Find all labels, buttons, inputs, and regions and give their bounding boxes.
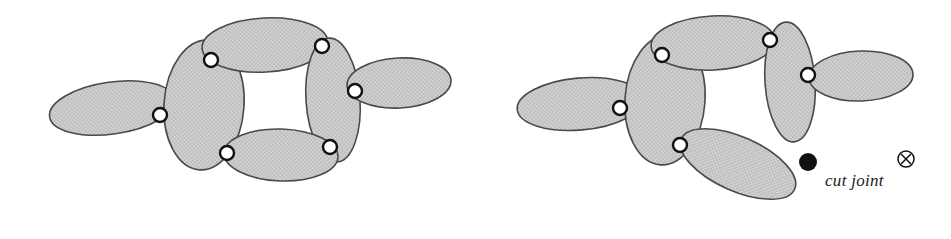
circled-x-icon <box>898 151 914 167</box>
cut-joint-label: cut joint <box>825 171 885 190</box>
figure-root: cut joint <box>0 0 951 239</box>
joint-marker-joint-left <box>153 108 167 122</box>
mechanism-figure: cut joint <box>0 0 951 239</box>
joint-marker-joint-bottom-left <box>220 146 234 160</box>
joint-marker-joint-top-left <box>655 48 669 62</box>
joint-marker-joint-bottom-left <box>673 138 687 152</box>
joint-marker-joint-top-left <box>204 53 218 67</box>
joint-marker-joint-top-right <box>315 39 329 53</box>
joint-marker-joint-bottom-right <box>323 140 337 154</box>
joint-marker-joint-top-right <box>763 33 777 47</box>
joint-marker-joint-right <box>801 68 815 82</box>
joint-marker-joint-left <box>613 101 627 115</box>
cut-joint-dot-icon <box>799 153 817 171</box>
joint-marker-joint-right <box>348 84 362 98</box>
